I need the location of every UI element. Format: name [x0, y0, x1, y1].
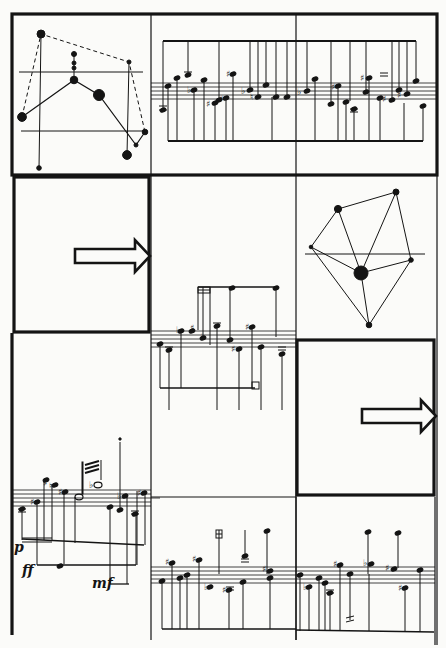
accidental-sharp: ♯ — [206, 99, 210, 109]
accidental-sharp: ♯ — [333, 559, 337, 569]
accidental-flat: ♭ — [89, 480, 93, 490]
graph-cell-top-left — [18, 30, 148, 170]
accidental-sharp: ♯ — [382, 94, 386, 104]
accidental-sharp: ♯ — [165, 557, 169, 567]
accidental-flat: ♭ — [363, 558, 367, 568]
grid-lines — [12, 14, 437, 645]
accidental-sharp: ♯ — [222, 585, 226, 595]
accidental-sharp: ♯ — [226, 69, 230, 79]
accidental-natural: ♮ — [250, 92, 253, 102]
accidental-sharp: ♯ — [245, 322, 249, 332]
score-page: ♭ ♯ ♯ ♯ ♭ ♮ ♭ ♯ ♯ ♯ ♯ — [0, 0, 446, 648]
accidental-flat: ♭ — [297, 87, 301, 97]
accidental-flat: ♭ — [201, 332, 205, 342]
accidental-flat: ♭ — [117, 491, 121, 501]
accidental-sharp: ♯ — [231, 344, 235, 354]
accidental-sharp: ♯ — [397, 90, 401, 100]
accidental-flat: ♭ — [176, 325, 180, 335]
accidental-flat: ♭ — [303, 582, 307, 592]
arrow-box-left — [14, 177, 150, 332]
accidental-sharp: ♯ — [43, 478, 47, 488]
polygon-graph — [305, 189, 425, 328]
accidental-sharp: ♯ — [58, 487, 62, 497]
accidental-natural: ♮ — [49, 481, 52, 491]
staff-cluster-bottom: ♯ ♯ ♭ ♯ ♯ ♭ ♯ ♭ ♯ ♯ — [151, 497, 435, 645]
accidental-sharp: ♯ — [219, 94, 223, 104]
arrow-right-icon — [75, 240, 150, 272]
accidental-sharp: ♯ — [385, 563, 389, 573]
accidental-sharp: ♯ — [30, 497, 34, 507]
dynamic-fortissimo: ff — [21, 562, 36, 578]
staff-cluster-top: ♭ ♯ ♯ ♯ ♭ ♮ ♭ ♯ ♯ ♯ ♯ — [151, 41, 436, 141]
accidental-flat: ♭ — [241, 86, 245, 96]
staff-cluster-middle: ♭ ♯ ♭ ♯ ♯ — [151, 285, 296, 410]
staff-with-dynamics: ♯ ♯ ♮ ♯ ♭ ♭ ♯ p ff mf — [12, 438, 160, 591]
accidental-sharp: ♯ — [192, 554, 196, 564]
accidental-sharp: ♯ — [331, 82, 335, 92]
accidental-sharp: ♯ — [398, 583, 402, 593]
accidental-sharp: ♯ — [262, 564, 266, 574]
accidental-flat: ♭ — [204, 582, 208, 592]
arrow-box-right — [297, 340, 436, 495]
accidental-flat: ♭ — [187, 85, 191, 95]
dynamic-mezzo-forte: mf — [92, 575, 116, 591]
dynamic-piano: p — [14, 539, 24, 555]
arrow-right-icon — [362, 400, 436, 432]
accidental-sharp: ♯ — [360, 73, 364, 83]
accidental-sharp: ♯ — [190, 323, 194, 333]
accidental-sharp: ♯ — [137, 488, 141, 498]
